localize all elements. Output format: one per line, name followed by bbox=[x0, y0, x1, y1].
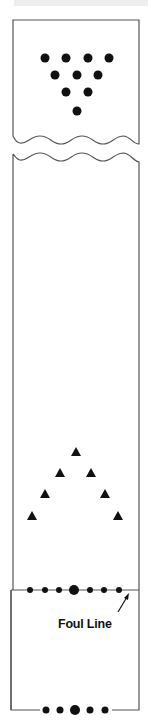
approach-dot bbox=[70, 705, 80, 715]
pin-dot bbox=[94, 71, 103, 80]
pin-dot bbox=[51, 71, 60, 80]
approach-dot bbox=[102, 707, 109, 714]
foul-line-dot bbox=[69, 585, 79, 595]
foul-line-dot bbox=[42, 587, 48, 593]
target-arrow-icon bbox=[86, 468, 96, 477]
target-arrow-icon bbox=[40, 489, 50, 498]
pins bbox=[41, 54, 114, 116]
pin-dot bbox=[73, 71, 82, 80]
approach-dots bbox=[43, 705, 109, 715]
pin-dot bbox=[73, 107, 82, 116]
pin-dot bbox=[41, 54, 50, 63]
pin-dot bbox=[62, 88, 71, 97]
pointer-arrow-icon bbox=[118, 597, 127, 612]
pin-dot bbox=[84, 54, 93, 63]
foul-line-dot bbox=[101, 587, 107, 593]
foul-line-label: Foul Line bbox=[58, 617, 112, 631]
approach-dot bbox=[57, 707, 64, 714]
pin-dot bbox=[84, 88, 93, 97]
target-arrow-icon bbox=[55, 468, 65, 477]
approach-dot bbox=[43, 707, 50, 714]
foul-line-dot bbox=[87, 587, 93, 593]
foul-line-dot bbox=[56, 587, 62, 593]
target-arrow-icon bbox=[71, 447, 81, 456]
pin-dot bbox=[62, 54, 71, 63]
target-arrow-icon bbox=[113, 511, 123, 520]
target-arrow-icon bbox=[27, 511, 37, 520]
target-arrows bbox=[27, 447, 123, 520]
foul-line-dot bbox=[27, 587, 33, 593]
pin-dot bbox=[105, 54, 114, 63]
target-arrow-icon bbox=[100, 489, 110, 498]
pin-deck-outline bbox=[13, 20, 139, 144]
foul-line-dot bbox=[116, 587, 122, 593]
approach-dot bbox=[87, 707, 94, 714]
